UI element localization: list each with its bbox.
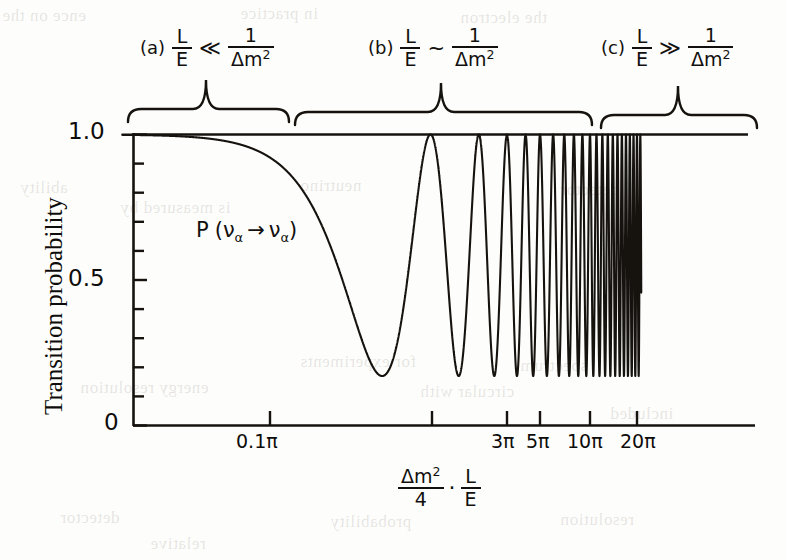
arrow-icon: → [243, 218, 269, 242]
x-axis-caption: Δm2 4 · L E [398, 466, 481, 509]
alpha-subscript-initial: α [235, 230, 244, 245]
y-axis-label: Transition probability [40, 197, 68, 415]
x-tick-label-3pi: 3π [491, 430, 515, 452]
delta-m-text: Δm [401, 465, 433, 487]
figure-vector-layer [0, 0, 786, 560]
delta-m-exponent: 2 [433, 464, 441, 479]
four-denominator: 4 [412, 489, 430, 509]
l-over-e-fraction: L E [461, 467, 481, 509]
l-numerator: L [462, 467, 479, 487]
close-paren: ) [289, 218, 297, 242]
y-tick-marks [133, 135, 147, 426]
x-tick-label-20pi: 20π [620, 430, 656, 452]
multiplication-dot-icon: · [447, 475, 458, 500]
region-braces [128, 80, 757, 128]
x-tick-label-0point1pi: 0.1π [236, 430, 278, 452]
x-tick-marks [270, 411, 637, 426]
survival-probability-annotation: P(να→να) [196, 218, 297, 245]
open-paren: ( [209, 218, 223, 242]
x-tick-label-5pi: 5π [526, 430, 550, 452]
p-symbol: P [196, 218, 209, 242]
alpha-subscript-final: α [281, 230, 290, 245]
e-denominator: E [461, 489, 479, 509]
y-tick-label-0point5: 0.5 [68, 265, 105, 291]
brace-region-b [295, 83, 592, 125]
oscillation-probability-figure: ence on thein practicethe electronabilit… [0, 0, 786, 560]
x-tick-label-10pi: 10π [567, 430, 603, 452]
y-tick-label-0: 0 [104, 409, 119, 435]
brace-region-c [601, 86, 757, 128]
nu-alpha-initial: ν [223, 218, 235, 242]
y-tick-label-1: 1.0 [68, 118, 105, 144]
survival-probability-curve [122, 135, 641, 377]
delta-m-squared-over-4-fraction: Δm2 4 [398, 466, 444, 509]
delta-m-squared-numerator: Δm2 [398, 466, 444, 487]
nu-alpha-final: ν [269, 218, 281, 242]
brace-region-a [128, 80, 289, 122]
plot-axes [133, 133, 755, 426]
